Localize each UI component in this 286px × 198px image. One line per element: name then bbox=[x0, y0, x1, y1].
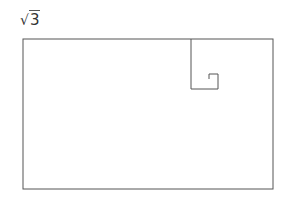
spiral-subdivision bbox=[191, 39, 218, 89]
diagram-canvas bbox=[0, 0, 286, 198]
outer-rectangle bbox=[23, 39, 273, 189]
